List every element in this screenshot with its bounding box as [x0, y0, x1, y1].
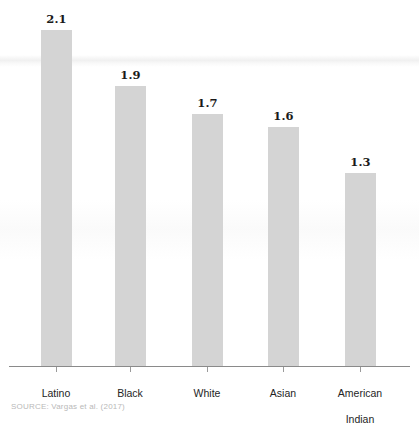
- bar-group-white: 1.7: [192, 113, 223, 367]
- x-axis-label-white: White: [167, 374, 247, 400]
- x-axis-label-black: Black: [90, 374, 170, 400]
- x-axis-label-american-indian-line1: American: [338, 387, 382, 399]
- x-axis-tick-latino: [56, 367, 57, 372]
- x-axis-tick-american-indian: [360, 367, 361, 372]
- bar-value-latino: 2.1: [41, 12, 72, 26]
- bar-black: [115, 86, 146, 367]
- bar-american-indian: [345, 173, 376, 367]
- x-axis-tick-black: [130, 367, 131, 372]
- bar-white: [192, 114, 223, 367]
- bar-group-american-indian: 1.3: [345, 172, 376, 367]
- bar-value-asian: 1.6: [268, 109, 299, 123]
- bar-latino: [41, 30, 72, 367]
- x-axis-tick-white: [207, 367, 208, 372]
- x-axis-label-latino-line1: Latino: [42, 387, 71, 399]
- bar-value-white: 1.7: [192, 96, 223, 110]
- bar-group-asian: 1.6: [268, 126, 299, 367]
- bar-asian: [268, 127, 299, 367]
- x-axis-label-american-indian-line2: Indian: [346, 413, 375, 425]
- x-axis-line: [9, 366, 410, 367]
- plot-area: 2.1 1.9 1.7 1.6 1.3: [0, 0, 419, 367]
- bar-group-latino: 2.1: [41, 29, 72, 367]
- x-axis-label-black-line1: Black: [117, 387, 143, 399]
- x-axis-label-white-line1: White: [194, 387, 221, 399]
- x-axis-label-american-indian: American Indian: [320, 374, 400, 426]
- x-axis-label-latino: Latino: [16, 374, 96, 400]
- bar-value-black: 1.9: [115, 68, 146, 82]
- bar-group-black: 1.9: [115, 85, 146, 367]
- x-axis-tick-asian: [283, 367, 284, 372]
- x-axis-label-asian: Asian: [243, 374, 323, 400]
- source-note: SOURCE: Vargas et al. (2017): [11, 402, 125, 412]
- bar-value-american-indian: 1.3: [345, 155, 376, 169]
- x-axis-label-asian-line1: Asian: [270, 387, 296, 399]
